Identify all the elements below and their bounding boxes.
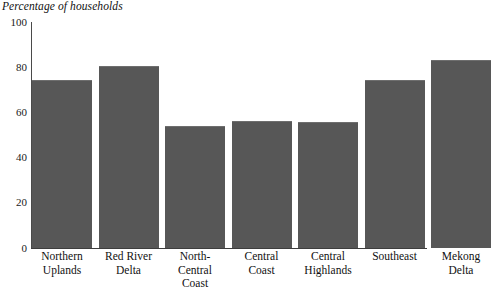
bar-slot (232, 22, 292, 248)
bar-slot (298, 22, 358, 248)
x-tick-label-line: Delta (96, 264, 162, 278)
x-tick-label: MekongDelta (428, 250, 494, 277)
x-axis-tick-labels: NorthernUplandsRed RiverDeltaNorth-Centr… (31, 250, 431, 305)
x-tick-label-line: Central (295, 250, 361, 264)
y-tick-label: 20 (0, 197, 27, 208)
x-tick-label: CentralHighlands (295, 250, 361, 277)
bar[interactable] (99, 66, 159, 248)
x-tick-label-line: Mekong (428, 250, 494, 264)
x-tick-label-line: Southeast (362, 250, 428, 264)
bar-slot (431, 22, 491, 248)
y-tick-label: 40 (0, 152, 27, 163)
x-tick-label: Southeast (362, 250, 428, 264)
x-tick-label: CentralCoast (229, 250, 295, 277)
bar[interactable] (232, 121, 292, 248)
bar[interactable] (365, 80, 425, 248)
x-tick-label-line: Coast (162, 277, 228, 291)
x-tick-label-line: Uplands (29, 264, 95, 278)
plot-area (31, 22, 427, 248)
bar[interactable] (431, 60, 491, 248)
bar-slot (32, 22, 92, 248)
x-tick-label-line: Delta (428, 264, 494, 278)
x-tick-label-line: North- (162, 250, 228, 264)
x-tick-label-line: Coast (229, 264, 295, 278)
bar-slot (165, 22, 225, 248)
bar[interactable] (298, 122, 358, 248)
x-tick-label-line: Central (229, 250, 295, 264)
x-tick-label-line: Red River (96, 250, 162, 264)
bar[interactable] (165, 126, 225, 248)
x-tick-label-line: Central (162, 264, 228, 278)
y-tick-label: 0 (0, 243, 27, 254)
x-tick-label: North-CentralCoast (162, 250, 228, 291)
bar[interactable] (32, 80, 92, 248)
y-axis-tick-labels: 020406080100 (0, 0, 29, 305)
x-axis-line (31, 248, 427, 249)
bar-slot (99, 22, 159, 248)
bar-slot (365, 22, 425, 248)
y-tick-label: 60 (0, 107, 27, 118)
x-tick-label: NorthernUplands (29, 250, 95, 277)
x-tick-label-line: Highlands (295, 264, 361, 278)
y-tick-label: 100 (0, 17, 27, 28)
x-tick-label: Red RiverDelta (96, 250, 162, 277)
y-tick-label: 80 (0, 62, 27, 73)
x-tick-label-line: Northern (29, 250, 95, 264)
